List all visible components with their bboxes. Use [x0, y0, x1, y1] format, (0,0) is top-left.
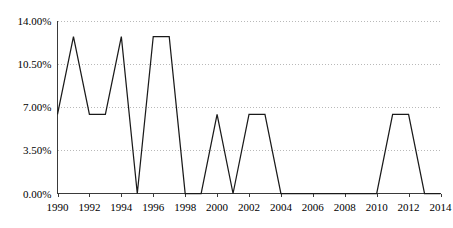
x-tick-label: 2010 — [366, 201, 389, 213]
x-tick-label: 2008 — [334, 201, 357, 213]
x-tick-label: 2014 — [430, 201, 453, 213]
y-tick-label: 0.00% — [23, 188, 51, 200]
x-tick-label: 2002 — [238, 201, 260, 213]
chart-container: 0.00%3.50%7.00%10.50%14.00% 199019921994… — [0, 0, 453, 228]
y-tick-label: 14.00% — [18, 15, 52, 27]
line-chart: 0.00%3.50%7.00%10.50%14.00% 199019921994… — [0, 0, 453, 228]
x-tick-label: 1996 — [142, 201, 165, 213]
x-tick-label: 1998 — [174, 201, 197, 213]
x-tick-label: 2006 — [302, 201, 325, 213]
x-tick-label: 1992 — [78, 201, 100, 213]
x-tick-label: 2000 — [206, 201, 229, 213]
y-tick-label: 10.50% — [18, 58, 52, 70]
x-tick-label: 2004 — [270, 201, 293, 213]
x-tick-label: 1994 — [110, 201, 133, 213]
y-tick-label: 3.50% — [23, 144, 51, 156]
x-tick-label: 1990 — [47, 201, 70, 213]
y-tick-label: 7.00% — [23, 101, 51, 113]
x-tick-label: 2012 — [398, 201, 420, 213]
